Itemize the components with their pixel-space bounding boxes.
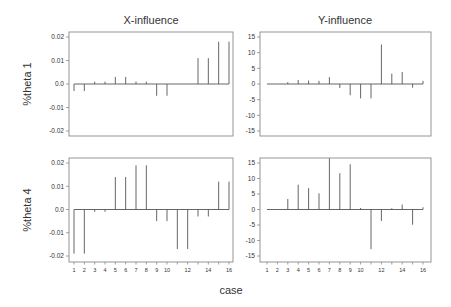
y-tick-label: -5 <box>249 96 255 103</box>
y-tick-label: 0.02 <box>51 159 64 166</box>
y-tick-label: 0.02 <box>51 33 64 40</box>
x-tick-label: 8 <box>338 267 341 273</box>
y-tick-label: -0.01 <box>49 229 64 236</box>
x-tick-label: 7 <box>328 267 331 273</box>
y-tick-label: 0.01 <box>51 57 64 64</box>
x-tick-label: 5 <box>307 267 310 273</box>
y-tick-label: -15 <box>246 127 256 134</box>
y-tick-label: 0 <box>251 206 255 213</box>
influence-figure: X-influence Y-influence %theta 1 %theta … <box>0 0 451 307</box>
y-tick-label: 5 <box>251 65 255 72</box>
x-tick-label: 6 <box>317 267 320 273</box>
x-tick-label: 1 <box>72 267 75 273</box>
x-tick-label: 9 <box>349 267 352 273</box>
x-tick-label: 8 <box>145 267 148 273</box>
x-tick-label: 12 <box>378 267 384 273</box>
y-tick-label: -15 <box>246 252 256 259</box>
y-tick-label: -5 <box>249 221 255 228</box>
y-tick-label: -0.02 <box>49 127 64 134</box>
y-tick-label: -0.01 <box>49 104 64 111</box>
x-tick-label: 2 <box>83 267 86 273</box>
x-tick-label: 16 <box>226 267 232 273</box>
x-tick-label: 14 <box>399 267 405 273</box>
column-title-y-influence: Y-influence <box>318 14 372 26</box>
panel-y-influence-theta-4: 151050-5-10-1512345678910121416 <box>246 158 431 273</box>
x-tick-label: 7 <box>134 267 137 273</box>
row-label-theta-4: %theta 4 <box>21 188 33 231</box>
row-label-theta-1: %theta 1 <box>21 62 33 105</box>
panel-y-influence-theta-1: 151050-5-10-15 <box>246 32 431 136</box>
figure-canvas: X-influence Y-influence %theta 1 %theta … <box>0 0 451 307</box>
y-tick-label: 15 <box>248 159 256 166</box>
y-tick-label: 0 <box>251 80 255 87</box>
y-tick-label: 0.0 <box>55 206 64 213</box>
x-tick-label: 3 <box>93 267 96 273</box>
panel-x-influence-theta-1: 0.020.010.0-0.01-0.02 <box>49 32 233 136</box>
y-tick-label: -10 <box>246 112 256 119</box>
y-tick-label: 15 <box>248 33 256 40</box>
x-tick-label: 10 <box>164 267 170 273</box>
x-tick-label: 9 <box>155 267 158 273</box>
y-tick-label: 0.01 <box>51 183 64 190</box>
x-tick-label: 1 <box>265 267 268 273</box>
x-tick-label: 12 <box>185 267 191 273</box>
y-tick-label: 10 <box>248 49 256 56</box>
plot-frame <box>260 158 431 262</box>
x-tick-label: 4 <box>297 267 300 273</box>
y-tick-label: 0.0 <box>55 80 64 87</box>
x-tick-label: 5 <box>114 267 117 273</box>
y-tick-label: 10 <box>248 175 256 182</box>
x-tick-label: 4 <box>103 267 106 273</box>
x-tick-label: 3 <box>286 267 289 273</box>
x-tick-label: 14 <box>205 267 211 273</box>
panel-x-influence-theta-4: 0.020.010.0-0.01-0.0212345678910121416 <box>49 158 233 273</box>
x-tick-label: 10 <box>358 267 364 273</box>
y-tick-label: -10 <box>246 237 256 244</box>
x-tick-label: 2 <box>276 267 279 273</box>
x-axis-label: case <box>219 284 242 296</box>
y-tick-label: 5 <box>251 190 255 197</box>
y-tick-label: -0.02 <box>49 252 64 259</box>
column-title-x-influence: X-influence <box>123 14 178 26</box>
x-tick-label: 6 <box>124 267 127 273</box>
x-tick-label: 16 <box>420 267 426 273</box>
